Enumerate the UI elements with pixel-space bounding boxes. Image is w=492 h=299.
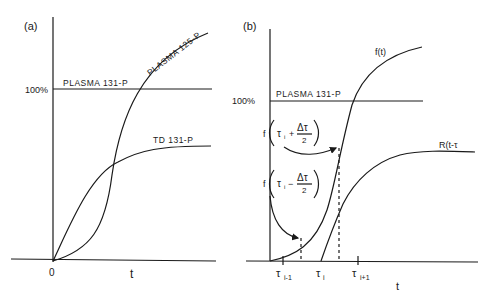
svg-text:f: f [263, 179, 266, 189]
panel-b-label: (b) [243, 20, 256, 32]
paren-right [314, 120, 319, 146]
paren-right-2 [314, 170, 319, 198]
tick-label-tau-i-minus-1: τ i-1 [276, 267, 292, 281]
svg-text:Δτ: Δτ [297, 122, 308, 133]
panel-a-x-axis [11, 259, 216, 261]
label-r-t-tau: R(t-τ [439, 140, 458, 150]
curve-r-t-tau [321, 151, 475, 261]
label-f-t: f(t) [375, 47, 386, 57]
label-plasma-125-p: PLASMA 125-P [145, 30, 202, 78]
svg-text:τ: τ [277, 178, 281, 189]
panel-b: (b) t 100% PLASMA 131-P f(t) R(t-τ τ i-1… [232, 20, 478, 292]
panel-a: (a) 0 t 100% PLASMA 131-P PLASMA 125-P T… [11, 17, 216, 281]
label-td-131-p: TD 131-P [153, 135, 193, 145]
tick-label-tau-i: τ i [316, 267, 325, 281]
svg-text:+: + [289, 129, 294, 139]
diagram-canvas: (a) 0 t 100% PLASMA 131-P PLASMA 125-P T… [0, 0, 492, 299]
svg-text:i: i [284, 134, 285, 140]
arrow-to-f-minus [270, 196, 298, 238]
svg-text:τ: τ [277, 128, 281, 139]
label-plasma-131-p: PLASMA 131-P [63, 78, 128, 88]
svg-text:f: f [263, 129, 266, 139]
panel-b-x-axis [246, 261, 478, 262]
svg-text:τ: τ [352, 267, 357, 279]
svg-text:2: 2 [302, 136, 307, 145]
svg-text:τ: τ [276, 267, 281, 279]
annotation-f-tau-plus: f τ i + Δτ 2 [263, 120, 319, 146]
svg-text:i: i [284, 184, 285, 190]
curve-f-t [270, 47, 422, 261]
svg-text:τ: τ [316, 267, 321, 279]
svg-text:i-1: i-1 [284, 274, 292, 281]
tick-label-tau-i-plus-1: τ i+1 [352, 267, 370, 281]
label-plasma-131-p-b: PLASMA 131-P [276, 89, 341, 99]
panel-a-x-label: t [130, 267, 134, 281]
panel-a-label: (a) [24, 20, 37, 32]
panel-a-origin-label: 0 [49, 267, 55, 278]
svg-text:2: 2 [302, 186, 307, 195]
panel-b-x-label: t [396, 280, 399, 292]
svg-text:i: i [323, 274, 325, 281]
svg-text:i+1: i+1 [360, 274, 370, 281]
panel-a-100-marker: 100% [25, 85, 48, 95]
svg-text:Δτ: Δτ [297, 172, 308, 183]
curve-td-131-p [53, 146, 211, 261]
arrow-to-f-plus [284, 147, 336, 154]
svg-text:−: − [288, 179, 293, 189]
annotation-f-tau-minus: f τ i − Δτ 2 [263, 170, 319, 198]
panel-b-100-marker: 100% [232, 96, 255, 106]
